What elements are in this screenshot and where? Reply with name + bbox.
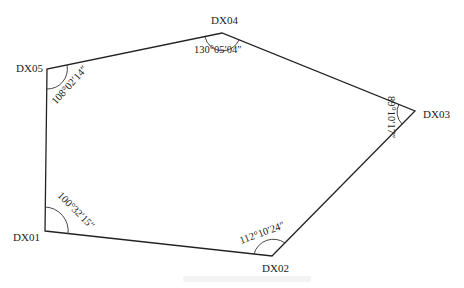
traverse-diagram: DX01 DX02 DX03 DX04 DX05 100°32′15″ 112°… xyxy=(0,0,464,288)
angle-value-dx05: 108°02′14″ xyxy=(49,64,89,107)
vertex-label-dx04: DX04 xyxy=(211,14,238,26)
vertex-label-dx05: DX05 xyxy=(16,62,43,74)
angle-value-dx02: 112°10′24″ xyxy=(238,219,286,245)
figure-caption-faint xyxy=(183,276,311,282)
angle-value-dx01: 100°32′15″ xyxy=(56,190,97,231)
traverse-polygon xyxy=(45,33,415,256)
angle-value-dx03: 89°10′17″ xyxy=(386,96,397,138)
diagram-svg: DX01 DX02 DX03 DX04 DX05 100°32′15″ 112°… xyxy=(0,0,464,288)
vertex-label-dx01: DX01 xyxy=(13,231,40,243)
angle-arc-dx01 xyxy=(45,207,68,234)
vertex-label-dx02: DX02 xyxy=(262,262,289,274)
vertex-label-dx03: DX03 xyxy=(423,108,450,120)
angle-value-dx04: 130°05′04″ xyxy=(194,44,242,55)
